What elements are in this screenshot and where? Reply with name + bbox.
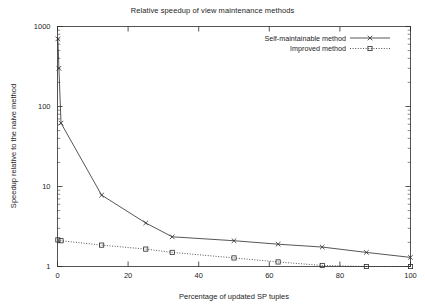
x-tick-label: 0 [55, 271, 59, 280]
y-tick-label: 1000 [34, 22, 51, 31]
y-axis-label: Speedup relative to the naive method [9, 84, 18, 208]
chart-plot-area: 1101001000 020406080100 Self-maintainabl… [0, 0, 425, 308]
x-tick-label: 80 [336, 271, 344, 280]
y-tick-label: 10 [42, 182, 50, 191]
legend-label-0: Self-maintainable method [264, 34, 346, 43]
x-axis-label: Percentage of updated SP tuples [179, 292, 289, 301]
x-tick-label: 20 [124, 271, 132, 280]
y-tick-label: 100 [38, 102, 51, 111]
data-point-marker [100, 243, 104, 247]
series-line-1 [58, 240, 411, 267]
x-tick-label: 100 [404, 271, 417, 280]
chart-figure: Relative speedup of view maintenance met… [0, 0, 425, 308]
y-axis-ticks: 1101001000 [34, 22, 411, 271]
legend-label-1: Improved method [290, 44, 346, 53]
legend: Self-maintainable methodImproved method [264, 34, 390, 54]
x-axis-ticks: 020406080100 [55, 27, 416, 280]
y-tick-label: 1 [46, 262, 50, 271]
x-tick-label: 60 [265, 271, 273, 280]
plot-frame [58, 27, 411, 267]
data-series-group [56, 37, 413, 269]
x-tick-label: 40 [195, 271, 203, 280]
series-line-0 [58, 39, 411, 257]
